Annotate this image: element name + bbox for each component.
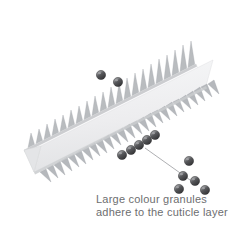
- granule: [150, 130, 159, 139]
- granule: [178, 171, 187, 180]
- granule: [134, 140, 143, 149]
- caption-line-1: Large colour granules: [96, 193, 228, 206]
- caption: Large colour granules adhere to the cuti…: [96, 193, 228, 218]
- granule: [184, 156, 193, 165]
- granule: [117, 150, 126, 159]
- granule-group-free-cluster: [174, 156, 209, 194]
- granule: [142, 135, 151, 144]
- granule-group-upper: [96, 70, 122, 86]
- granule: [126, 145, 135, 154]
- granule: [113, 77, 122, 86]
- caption-line-2: adhere to the cuticle layer: [96, 206, 228, 219]
- figure-canvas: Large colour granules adhere to the cuti…: [0, 0, 232, 238]
- granule: [190, 176, 199, 185]
- granule: [96, 70, 105, 79]
